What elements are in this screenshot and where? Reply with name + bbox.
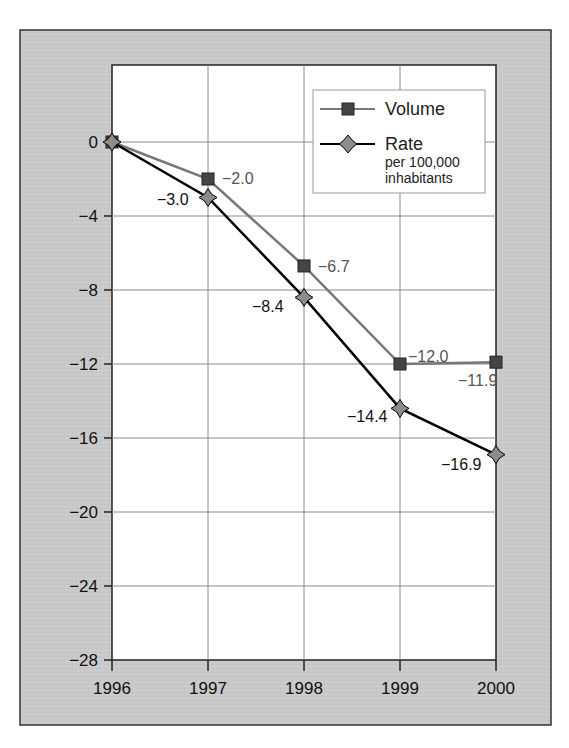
square-marker-icon: [490, 356, 502, 368]
x-tick-label: 1998: [285, 679, 323, 698]
volume-data-label: −2.0: [222, 170, 254, 187]
x-tick-label: 1997: [189, 679, 227, 698]
legend-rate-label: Rate: [385, 134, 423, 154]
legend: Volume Rate per 100,000 inhabitants: [313, 90, 485, 193]
volume-data-label: −11.9: [458, 372, 497, 389]
rate-data-label: −14.4: [347, 408, 388, 425]
y-tick-label: 0: [89, 133, 98, 152]
rate-data-label: −3.0: [157, 191, 189, 208]
volume-data-label: −6.7: [318, 258, 350, 275]
y-tick-label: −12: [69, 355, 98, 374]
y-tick-label: −24: [69, 577, 98, 596]
rate-data-label: −16.9: [441, 456, 482, 473]
x-tick-label: 1996: [93, 679, 131, 698]
legend-rate-sub2: inhabitants: [385, 170, 453, 186]
y-tick-label: −28: [69, 651, 98, 670]
y-tick-label: −8: [79, 281, 98, 300]
square-marker-icon: [202, 173, 214, 185]
square-marker-icon: [342, 103, 354, 115]
rate-data-label: −8.4: [252, 298, 284, 315]
line-chart: 0−4−8−12−16−20−24−28 1996199719981999200…: [0, 0, 569, 748]
square-marker-icon: [394, 358, 406, 370]
x-tick-label: 1999: [381, 679, 419, 698]
legend-volume-label: Volume: [385, 99, 445, 119]
legend-rate-sub1: per 100,000: [385, 154, 460, 170]
square-marker-icon: [298, 260, 310, 272]
volume-data-label: −12.0: [408, 348, 449, 365]
y-tick-label: −16: [69, 429, 98, 448]
x-tick-label: 2000: [477, 679, 515, 698]
y-tick-label: −4: [79, 207, 98, 226]
y-tick-label: −20: [69, 503, 98, 522]
